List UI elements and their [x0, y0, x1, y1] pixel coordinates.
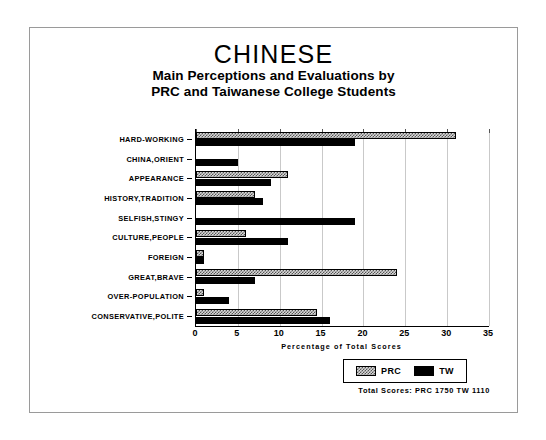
- x-tick-label: 5: [234, 328, 239, 338]
- chart-frame: CHINESE Main Perceptions and Evaluations…: [29, 27, 518, 413]
- x-axis-title: Percentage of Total Scores: [195, 342, 488, 351]
- total-scores-note: Total Scores: PRC 1750 TW 1110: [30, 386, 490, 395]
- category-label: CULTURE,PEOPLE: [112, 233, 184, 242]
- title-block: CHINESE Main Perceptions and Evaluations…: [30, 40, 517, 100]
- legend-label-tw: TW: [439, 366, 454, 376]
- category-label: HISTORY,TRADITION: [104, 193, 184, 202]
- category-label: OVER-POPULATION: [107, 292, 184, 301]
- category-tick: [187, 296, 192, 297]
- category-label: APPEARANCE: [129, 174, 184, 183]
- category-tick: [187, 277, 192, 278]
- category-tick: [187, 139, 192, 140]
- bar-tw: [196, 277, 255, 284]
- bar-prc: [196, 289, 204, 296]
- chart-subtitle-line-1: Main Perceptions and Evaluations by: [30, 68, 517, 84]
- solid-black-swatch-icon: [414, 366, 434, 376]
- bar-group: [196, 129, 489, 149]
- category-label: SELFISH,STINGY: [118, 213, 184, 222]
- category-label: GREAT,BRAVE: [128, 272, 184, 281]
- x-tick-label: 25: [399, 328, 409, 338]
- bar-tw: [196, 139, 355, 146]
- bar-tw: [196, 159, 238, 166]
- chart-subtitle-line-2: PRC and Taiwanese College Students: [30, 84, 517, 100]
- plot-area: [195, 129, 489, 327]
- bar-group: [196, 228, 489, 248]
- category-tick: [187, 237, 192, 238]
- legend-label-prc: PRC: [381, 366, 401, 376]
- x-tick-label: 20: [357, 328, 367, 338]
- bar-tw: [196, 297, 229, 304]
- bar-group: [196, 208, 489, 228]
- bar-group: [196, 168, 489, 188]
- bar-group: [196, 149, 489, 169]
- category-tick: [187, 218, 192, 219]
- bar-prc: [196, 191, 255, 198]
- category-tick: [187, 159, 192, 160]
- axis-tick: [489, 129, 490, 133]
- bar-prc: [196, 309, 317, 316]
- legend: PRC TW: [343, 359, 467, 383]
- legend-item-prc: PRC: [356, 366, 401, 376]
- bar-group: [196, 267, 489, 287]
- category-label: FOREIGN: [148, 253, 184, 262]
- x-tick-label: 30: [441, 328, 451, 338]
- bar-group: [196, 247, 489, 267]
- bar-tw: [196, 218, 355, 225]
- bar-tw: [196, 179, 271, 186]
- page-title: CHINESE: [30, 40, 517, 68]
- bar-tw: [196, 198, 263, 205]
- bar-prc: [196, 269, 397, 276]
- bar-prc: [196, 132, 456, 139]
- x-tick-label: 0: [192, 328, 197, 338]
- bar-tw: [196, 257, 204, 264]
- category-tick: [187, 198, 192, 199]
- x-tick-label: 15: [316, 328, 326, 338]
- x-tick-label: 10: [274, 328, 284, 338]
- category-tick: [187, 316, 192, 317]
- bar-tw: [196, 317, 330, 324]
- bar-tw: [196, 238, 288, 245]
- hatched-swatch-icon: [356, 366, 376, 376]
- category-axis: HARD-WORKINGCHINA,ORIENTAPPEARANCEHISTOR…: [70, 129, 192, 326]
- bar-prc: [196, 230, 246, 237]
- bar-group: [196, 287, 489, 307]
- x-tick-label: 35: [483, 328, 493, 338]
- gridline: [489, 129, 490, 326]
- category-label: CONSERVATIVE,POLITE: [92, 312, 184, 321]
- category-tick: [187, 257, 192, 258]
- bar-group: [196, 188, 489, 208]
- category-label: CHINA,ORIENT: [126, 154, 184, 163]
- category-tick: [187, 178, 192, 179]
- bar-prc: [196, 171, 288, 178]
- bar-prc: [196, 250, 204, 257]
- legend-item-tw: TW: [414, 366, 454, 376]
- category-label: HARD-WORKING: [119, 134, 184, 143]
- bar-group: [196, 306, 489, 326]
